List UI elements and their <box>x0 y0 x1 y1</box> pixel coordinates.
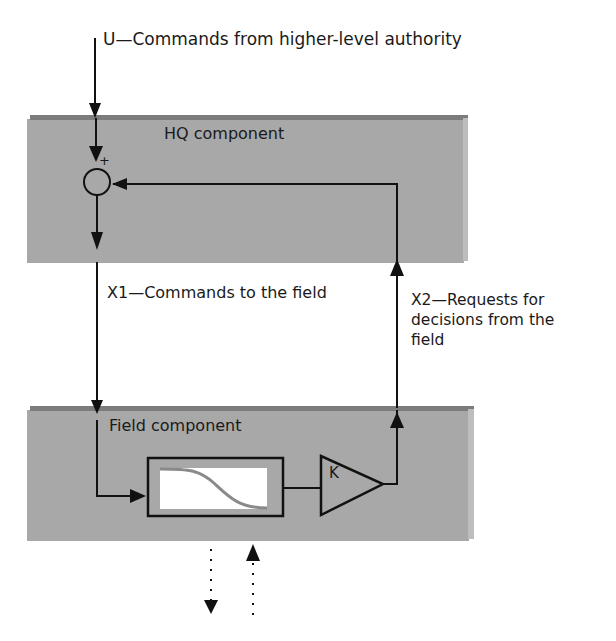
x1-label: X1—Commands to the field <box>107 283 327 303</box>
input-u-arrow <box>89 38 101 118</box>
x2-label: X2—Requests for decisions from the field <box>411 290 554 350</box>
input-u-label: U—Commands from higher-level authority <box>103 29 462 49</box>
summing-junction-plus-sign: + <box>99 154 110 168</box>
dotted-input-arrow <box>246 544 260 618</box>
x1-arrow <box>91 195 103 414</box>
hq-component-title: HQ component <box>164 124 284 144</box>
field-component-title: Field component <box>109 416 242 436</box>
x2-feedback-line <box>112 178 404 484</box>
gain-k-label: K <box>329 463 339 483</box>
dotted-output-arrow <box>204 549 218 614</box>
x2-label-line-1: X2—Requests for <box>411 290 554 310</box>
sigmoid-filter-block <box>148 458 283 516</box>
x2-label-line-2: decisions from the <box>411 310 554 330</box>
x2-label-line-3: field <box>411 330 554 350</box>
summing-junction-icon <box>84 169 110 195</box>
